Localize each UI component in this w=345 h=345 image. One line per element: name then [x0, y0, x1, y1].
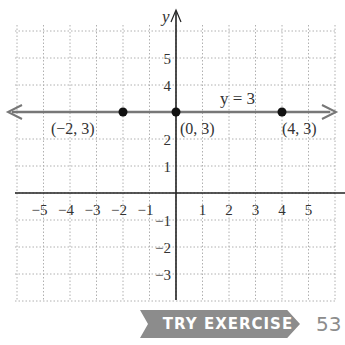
x-tick-label: −4: [58, 202, 74, 218]
x-tick-label: 5: [305, 202, 313, 218]
y-tick-label: 5: [164, 51, 172, 67]
x-tick-label: 3: [252, 202, 260, 218]
coordinate-graph: y−5−4−3−2−1123455421−1−2−3y = 3(−2, 3)(0…: [0, 0, 345, 310]
exercise-number: 53: [316, 310, 341, 338]
y-tick-label: −3: [155, 267, 171, 283]
x-tick-label: −5: [32, 202, 48, 218]
point-label: (4, 3): [282, 120, 317, 138]
point-label: (0, 3): [180, 120, 215, 138]
y-tick-label: 4: [164, 78, 172, 94]
footer: TRY EXERCISE 53: [140, 310, 345, 338]
point-label: (−2, 3): [51, 120, 95, 138]
x-tick-label: −1: [138, 202, 154, 218]
x-tick-label: 2: [225, 202, 233, 218]
y-axis-label: y: [160, 7, 170, 26]
try-exercise-button[interactable]: TRY EXERCISE: [140, 310, 300, 338]
y-tick-label: −2: [155, 240, 171, 256]
x-tick-label: 1: [199, 202, 207, 218]
y-tick-label: 2: [164, 132, 172, 148]
equation-label: y = 3: [220, 89, 255, 108]
y-tick-label: 1: [164, 159, 172, 175]
x-tick-label: −2: [111, 202, 127, 218]
data-point: [278, 108, 287, 117]
x-tick-label: 4: [278, 202, 286, 218]
data-point: [172, 108, 181, 117]
x-tick-label: −3: [85, 202, 101, 218]
y-tick-label: −1: [155, 213, 171, 229]
try-exercise-label: TRY EXERCISE: [163, 315, 293, 333]
data-point: [119, 108, 128, 117]
